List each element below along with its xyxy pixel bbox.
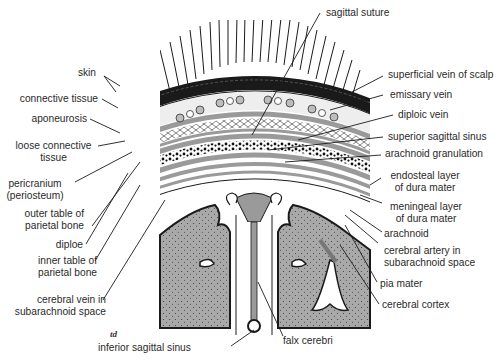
label-emissary-vein: emissary vein [390,89,452,101]
label-arachnoid: arachnoid [384,228,429,240]
label-line: (periosteum) [0,190,70,202]
label-inner-table: inner table of parietal bone [10,255,97,278]
label-cerebral-vein: cerebral vein in subarachnoid space [0,294,106,317]
label-line: inner table of [10,255,97,267]
label-line: of dura mater [385,213,467,225]
label-pericranium: pericranium (periosteum) [0,178,70,201]
label-line: loose connective [10,140,97,152]
label-aponeurosis: aponeurosis [10,113,87,125]
cerebral-hemispheres [160,205,370,328]
label-line: cerebral vein in [0,294,106,306]
label-line: pericranium [0,178,70,190]
label-cerebral-artery: cerebral artery in subarachnoid space [384,245,475,268]
scalp-and-skull-layers [120,80,390,211]
label-meningeal-layer: meningeal layer of dura mater [385,201,467,224]
label-falx-cerebri: falx cerebri [283,335,333,347]
label-loose-connective-tissue: loose connective tissue [10,140,97,163]
label-superior-sagittal-sinus: superior sagittal sinus [388,131,487,143]
label-diploic-vein: diploic vein [398,109,448,121]
label-inferior-sagittal-sinus: inferior sagittal sinus [98,342,191,354]
label-skin: skin [40,67,96,79]
label-line: parietal bone [10,267,97,279]
label-line: endosteal layer [385,170,465,182]
label-line: tissue [10,152,97,164]
label-diploe: diploe [30,239,83,251]
label-line: of dura mater [385,182,465,194]
label-line: subarachnoid space [384,257,475,269]
label-cerebral-cortex: cerebral cortex [382,299,449,311]
label-superficial-vein: superficial vein of scalp [388,69,493,81]
label-line: subarachnoid space [0,306,106,318]
left-hemisphere [160,205,230,328]
label-outer-table: outer table of parietal bone [10,208,84,231]
label-line: parietal bone [10,220,84,232]
label-sagittal-suture: sagittal suture [326,7,389,19]
superior-sagittal-sinus-shape [236,193,272,222]
label-arachnoid-granulation: arachnoid granulation [385,148,483,160]
arachnoid-granulation-shape [226,193,237,205]
label-pia-mater: pia mater [380,278,422,290]
label-line: meningeal layer [385,201,467,213]
label-connective-tissue: connective tissue [0,93,98,105]
label-line: outer table of [10,208,84,220]
falx-cerebri-shape [236,215,272,335]
label-line: cerebral artery in [384,245,475,257]
label-endosteal-layer: endosteal layer of dura mater [385,170,465,193]
artist-signature: td [110,329,117,339]
